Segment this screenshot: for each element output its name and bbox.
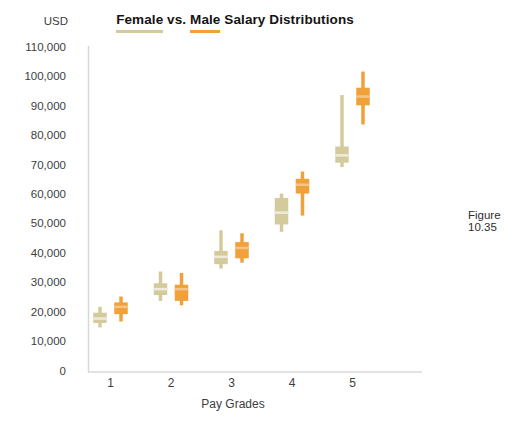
box-rect (114, 302, 128, 314)
median-line (335, 154, 349, 157)
x-axis-tick-label: 4 (280, 376, 304, 390)
x-axis-tick-label: 3 (220, 376, 244, 390)
boxplot-female-grade-2 (154, 272, 168, 301)
median-line (296, 184, 310, 187)
median-line (175, 288, 189, 291)
x-axis-tick-label: 5 (341, 376, 365, 390)
median-line (154, 288, 168, 291)
median-line (93, 317, 107, 320)
median-line (214, 256, 228, 259)
x-axis-title: Pay Grades (133, 397, 333, 411)
median-line (235, 247, 249, 250)
boxplot-female-grade-4 (275, 194, 289, 232)
boxplot-male-grade-1 (114, 297, 128, 322)
boxplot-male-grade-3 (235, 233, 249, 262)
median-line (275, 211, 289, 214)
median-line (114, 306, 128, 309)
boxplot-female-grade-1 (93, 307, 107, 328)
box-rect (175, 285, 189, 301)
boxplot-female-grade-5 (335, 95, 349, 167)
box-rect (275, 198, 289, 224)
boxplot-male-grade-4 (296, 172, 310, 216)
boxplot-male-grade-5 (356, 72, 370, 125)
x-axis-tick-label: 2 (159, 376, 183, 390)
box-rect (235, 242, 249, 258)
median-line (356, 95, 370, 98)
page: USD Female vs. Male Salary Distributions… (0, 0, 531, 435)
figure-caption: Figure 10.35 (468, 209, 531, 233)
boxplot-female-grade-3 (214, 230, 228, 268)
boxplot-male-grade-2 (175, 273, 189, 305)
x-axis-tick-label: 1 (99, 376, 123, 390)
box-rect (296, 179, 310, 194)
boxplot-chart (0, 0, 531, 435)
